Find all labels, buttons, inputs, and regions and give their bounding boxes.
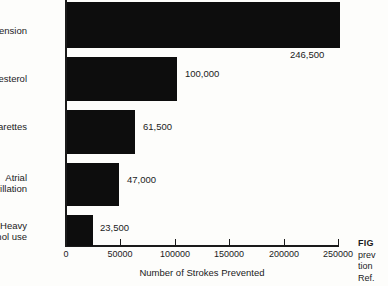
value-label-cigarettes: 61,500 [143,121,172,132]
figure-caption-line-3: Ref. [358,273,388,285]
figure-caption: FIG prev tion Ref. [358,238,388,284]
category-label-hypertension: Hypertension [0,25,27,36]
x-tick-mark-50000 [120,239,121,246]
x-tick-label-0: 0 [63,249,68,259]
bar-atrial-fibrillation [67,163,119,206]
x-tick-label-250000: 250000 [323,249,353,259]
figure-caption-line-2: tion [358,261,388,273]
x-tick-mark-150000 [229,239,230,246]
x-tick-label-100000: 100000 [160,249,190,259]
x-tick-mark-200000 [284,239,285,246]
value-label-heavy-alcohol-use: 23,500 [100,222,129,233]
x-tick-mark-0 [66,239,67,246]
x-axis-line [65,245,339,247]
bar-chart-plot-area: Hypertension Cholesterol Cigarettes Atri… [0,0,348,286]
x-tick-label-150000: 150000 [214,249,244,259]
x-axis-title: Number of Strokes Prevented [65,267,339,278]
value-label-atrial-fibrillation: 47,000 [127,174,156,185]
x-tick-mark-250000 [338,239,339,246]
x-tick-label-200000: 200000 [269,249,299,259]
category-label-cigarettes: Cigarettes [0,121,27,132]
figure-caption-line-1: prev [358,250,388,262]
x-tick-mark-100000 [175,239,176,246]
bar-hypertension [67,2,340,48]
bar-cholesterol [67,57,177,101]
bar-cigarettes [67,110,135,154]
value-label-hypertension: 246,500 [290,49,324,60]
figure-caption-label: FIG [358,238,388,250]
category-label-heavy-alcohol-use: Heavy alcohol use [0,220,27,242]
category-label-cholesterol: Cholesterol [0,73,27,84]
figure-page: Hypertension Cholesterol Cigarettes Atri… [0,0,388,286]
category-label-atrial-fibrillation: Atrial fibrillation [0,172,27,194]
bar-heavy-alcohol-use [67,215,93,246]
x-tick-label-50000: 50000 [107,249,132,259]
value-label-cholesterol: 100,000 [185,68,219,79]
